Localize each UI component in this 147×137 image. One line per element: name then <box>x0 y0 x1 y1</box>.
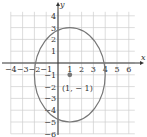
y-tick-label: 2 <box>51 35 56 44</box>
x-tick-label: 5 <box>114 65 119 74</box>
y-axis-label: y <box>59 0 65 9</box>
center-point-label: (1, − 1) <box>62 84 93 93</box>
ellipse-graph: x y −4−3−2−1123456 4321−1−2−3−4−5−6 (1, … <box>0 0 147 137</box>
y-tick-label: 1 <box>51 47 56 56</box>
x-tick-label: 3 <box>91 65 96 74</box>
y-tick-label: 4 <box>51 12 56 21</box>
y-tick-label: −3 <box>44 94 56 103</box>
y-tick-label: −6 <box>44 130 56 137</box>
x-tick-label: 2 <box>79 65 84 74</box>
y-tick-label: −2 <box>44 83 56 92</box>
y-tick-label: −1 <box>44 71 56 80</box>
y-tick-label: −5 <box>44 118 56 127</box>
center-point <box>67 72 72 77</box>
x-tick-label: 6 <box>126 65 131 74</box>
x-tick-labels: −4−3−2−1123456 <box>5 65 131 74</box>
x-axis-label: x <box>141 53 146 62</box>
x-tick-label: −4 <box>5 65 17 74</box>
x-tick-label: −3 <box>17 65 29 74</box>
